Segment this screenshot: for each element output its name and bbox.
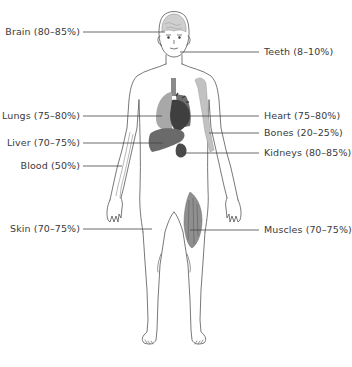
right-hand (226, 198, 241, 222)
label-muscles: Muscles (70–75%) (264, 224, 352, 236)
left-hand (107, 198, 122, 222)
kidney-organ (176, 144, 187, 158)
blood-vessels (116, 132, 133, 198)
arm-bone (195, 78, 214, 152)
label-lungs: Lungs (75–80%) (0, 110, 80, 122)
label-liver: Liver (70–75%) (0, 137, 80, 149)
label-skin: Skin (70–75%) (0, 223, 80, 235)
label-brain: Brain (80–85%) (0, 26, 80, 38)
label-bones: Bones (20–25%) (264, 127, 343, 139)
label-kidneys: Kidneys (80–85%) (264, 147, 351, 159)
lungs-organ (156, 92, 172, 130)
label-teeth: Teeth (8–10%) (264, 46, 333, 58)
brain-organ (162, 14, 186, 32)
label-heart: Heart (75–80%) (264, 110, 340, 122)
label-blood: Blood (50%) (0, 160, 80, 172)
